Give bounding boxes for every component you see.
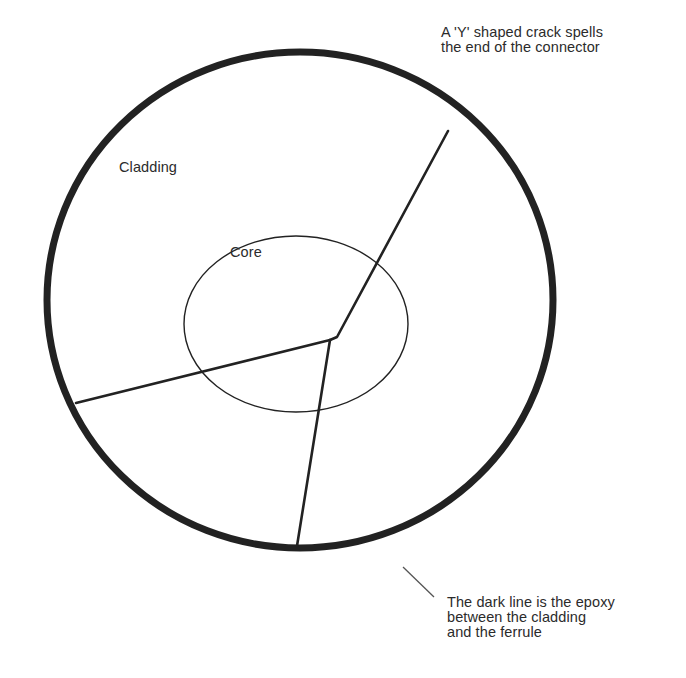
crack-branch-upper-right [330,131,448,340]
epoxy-annotation-line-2: between the cladding [447,610,615,625]
epoxy-leader-line [403,567,434,597]
core-circle [184,236,408,412]
crack-annotation-line-2: the end of the connector [441,40,603,55]
crack-branch-down [297,340,330,546]
crack-annotation-line-1: A 'Y' shaped crack spells [441,25,603,40]
crack-branch-left [76,340,330,403]
core-label: Core [230,245,262,260]
crack-annotation: A 'Y' shaped crack spells the end of the… [441,25,603,55]
epoxy-annotation: The dark line is the epoxy between the c… [447,595,615,640]
cladding-label: Cladding [119,160,177,175]
epoxy-ring [47,52,553,548]
connector-endface-diagram [0,0,686,678]
epoxy-annotation-line-1: The dark line is the epoxy [447,595,615,610]
epoxy-annotation-line-3: and the ferrule [447,625,615,640]
